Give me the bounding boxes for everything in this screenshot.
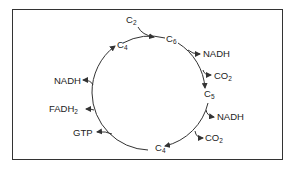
node-c6: C6 — [166, 34, 177, 46]
node-c4-bottom: C4 — [155, 143, 166, 155]
output-nadh-3: NADH — [54, 76, 81, 86]
node-c5: C5 — [204, 89, 215, 101]
output-nadh-1: NADH — [203, 49, 230, 59]
output-co2-2: CO2 — [205, 133, 223, 145]
node-c4-top: C4 — [117, 40, 128, 52]
output-nadh-2: NADH — [217, 112, 244, 122]
output-fadh2: FADH2 — [49, 104, 78, 116]
output-gtp: GTP — [73, 128, 93, 138]
node-c2: C2 — [126, 15, 137, 27]
output-co2-1: CO2 — [214, 71, 232, 83]
cycle-arrows — [0, 0, 290, 169]
